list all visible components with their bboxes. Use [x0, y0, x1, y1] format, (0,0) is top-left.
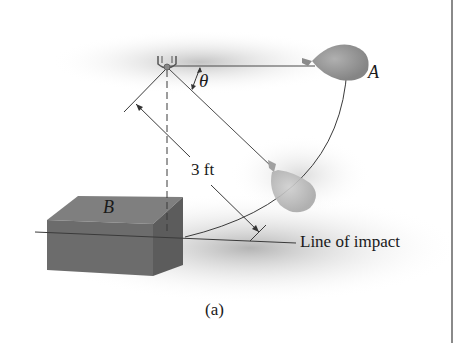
- diagram-canvas: [0, 0, 462, 343]
- page-border-right: [451, 0, 453, 343]
- block-B: [47, 196, 183, 276]
- label-angle-theta: θ: [199, 70, 208, 92]
- label-length-dimension: 3 ft: [191, 160, 214, 180]
- block-front-face: [47, 220, 153, 276]
- label-balloon-A: A: [368, 62, 379, 83]
- label-block-B: B: [103, 197, 114, 218]
- label-line-of-impact: Line of impact: [300, 232, 400, 252]
- pendulum-impact-diagram: A B θ 3 ft Line of impact (a): [0, 0, 462, 343]
- figure-caption: (a): [205, 300, 224, 320]
- dimension-line-upper: [136, 104, 190, 157]
